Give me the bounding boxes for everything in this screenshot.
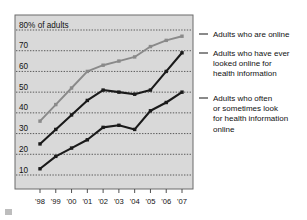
data-point-1-3 [86, 99, 89, 102]
data-point-0-8 [165, 39, 168, 42]
x-axis-label-04: '04 [130, 197, 140, 206]
legend-label-2-line-0: Adults who often [213, 94, 272, 103]
x-axis-label-05: '05 [145, 197, 155, 206]
data-point-2-3 [86, 138, 89, 141]
data-point-0-0 [38, 119, 41, 122]
legend-label-2-line-1: or sometimes look [213, 104, 279, 113]
chart-figure: 1020304050607080% of adults '98'99'00'01… [0, 0, 307, 220]
y-axis-label-40: 40 [19, 103, 29, 112]
data-point-2-1 [54, 155, 57, 158]
data-point-0-6 [133, 55, 136, 58]
data-point-1-5 [117, 90, 120, 93]
x-axis-label-03: '03 [114, 197, 124, 206]
data-point-1-1 [54, 128, 57, 131]
y-axis-label-10: 10 [19, 166, 29, 175]
data-point-2-9 [180, 90, 183, 93]
y-axis-label-60: 60 [19, 62, 29, 71]
legend-label-0-line-0: Adults who are online [213, 30, 290, 39]
data-point-2-6 [133, 128, 136, 131]
x-axis-label-02: '02 [98, 197, 108, 206]
x-axis-label-99: '99 [51, 197, 61, 206]
data-point-1-0 [38, 142, 41, 145]
y-axis-label-30: 30 [19, 124, 29, 133]
data-point-2-7 [149, 109, 152, 112]
data-point-0-2 [70, 86, 73, 89]
data-point-1-7 [149, 88, 152, 91]
data-point-0-9 [180, 35, 183, 38]
y-axis-top-label: 80% of adults [19, 21, 69, 30]
x-axis-label-00: '00 [67, 197, 77, 206]
data-point-0-4 [101, 64, 104, 67]
data-point-2-0 [38, 167, 41, 170]
data-point-1-8 [165, 70, 168, 73]
data-point-0-7 [149, 45, 152, 48]
data-point-2-5 [117, 124, 120, 127]
data-point-2-2 [70, 146, 73, 149]
legend-label-2-line-3: online [213, 125, 235, 134]
data-point-1-2 [70, 113, 73, 116]
data-point-0-1 [54, 103, 57, 106]
y-axis-label-70: 70 [19, 41, 29, 50]
data-point-1-9 [180, 51, 183, 54]
corner-mark [5, 209, 12, 215]
legend-label-1-line-0: Adults who have ever [213, 49, 290, 58]
line-chart-svg: 1020304050607080% of adults '98'99'00'01… [0, 0, 307, 220]
legend-label-1-line-1: looked online for [213, 59, 272, 68]
x-axis-label-06: '06 [161, 197, 171, 206]
data-point-2-4 [101, 126, 104, 129]
data-point-0-3 [86, 70, 89, 73]
y-axis-label-20: 20 [19, 145, 29, 154]
data-point-0-5 [117, 59, 120, 62]
data-point-2-8 [165, 101, 168, 104]
y-axis-label-50: 50 [19, 83, 29, 92]
x-axis-label-07: '07 [177, 197, 187, 206]
legend-label-2-line-2: for health information [213, 114, 288, 123]
x-axis-label-98: '98 [35, 197, 45, 206]
data-point-1-4 [101, 88, 104, 91]
x-axis-label-01: '01 [82, 197, 92, 206]
data-point-1-6 [133, 93, 136, 96]
legend-label-1-line-2: health information [213, 69, 277, 78]
